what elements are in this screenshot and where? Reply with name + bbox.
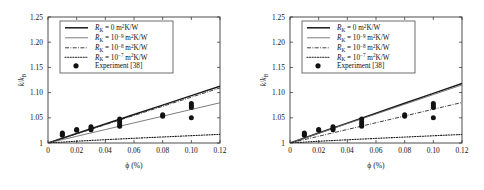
data-point: [431, 101, 436, 106]
x-tick-label: 0.02: [312, 146, 325, 155]
data-point: [331, 124, 336, 129]
x-tick-label: 0.10: [185, 146, 198, 155]
data-point: [431, 115, 436, 120]
y-axis-den-sub: B: [21, 73, 27, 77]
y-axis-den-sub: B: [263, 73, 269, 77]
y-tick-label: 1.10: [272, 88, 285, 97]
legend-unit-tail: K/W: [134, 34, 148, 42]
x-tick-label: 0.06: [128, 146, 141, 155]
legend-unit-tail: K/W: [366, 24, 380, 32]
y-tick-label: 1.15: [30, 63, 43, 72]
chart-svg-right: 00.020.040.060.080.100.1211.051.101.151.…: [242, 0, 484, 190]
y-axis-title: k/kB: [259, 73, 269, 86]
y-tick-label: 1.05: [30, 113, 43, 122]
legend-eq: = 10: [103, 54, 118, 62]
legend-label: Experiment [38]: [95, 62, 142, 70]
y-tick-label: 1.10: [30, 88, 43, 97]
legend-eq: = 0 m: [345, 24, 364, 32]
x-tick-label: 0.02: [70, 146, 83, 155]
legend-marker-experiment: [315, 63, 320, 68]
data-point: [189, 115, 194, 120]
legend-eq: = 0 m: [103, 24, 122, 32]
legend-eq: = 10: [345, 54, 360, 62]
legend-unit-tail: K/W: [134, 44, 148, 52]
legend-unit-tail: K/W: [124, 24, 138, 32]
legend-label: Experiment [38]: [337, 62, 384, 70]
x-tick-label: 0.06: [370, 146, 383, 155]
legend-unit-tail: K/W: [376, 34, 390, 42]
chart-svg-left: 00.020.040.060.080.100.1211.051.101.151.…: [0, 0, 242, 190]
data-point: [316, 127, 321, 132]
x-tick-label: 0.12: [214, 146, 227, 155]
data-point: [74, 127, 79, 132]
data-point: [89, 124, 94, 129]
data-point: [402, 112, 407, 117]
y-tick-label: 1.25: [272, 13, 285, 22]
x-axis-title: ϕ (%): [367, 161, 385, 170]
legend-unit-tail: K/W: [376, 44, 390, 52]
series-line: [48, 103, 220, 143]
y-axis-title-text: k/kB: [17, 73, 27, 86]
x-tick-label: 0: [288, 146, 292, 155]
x-tick-label: 0.04: [99, 146, 112, 155]
x-tick-label: 0.10: [427, 146, 440, 155]
x-tick-label: 0.08: [398, 146, 411, 155]
legend-eq: = 10: [103, 34, 118, 42]
x-tick-label: 0.12: [456, 146, 469, 155]
series-line: [48, 88, 220, 143]
legend-eq: = 10: [345, 44, 360, 52]
y-tick-label: 1.25: [30, 13, 43, 22]
plot-area: [48, 86, 220, 143]
series-line: [290, 102, 462, 143]
y-tick-label: 1.20: [30, 38, 43, 47]
y-tick-label: 1.05: [272, 113, 285, 122]
x-tick-label: 0: [46, 146, 50, 155]
legend-eq: = 10: [103, 44, 118, 52]
legend-unit-tail: K/W: [376, 54, 390, 62]
x-tick-label: 0.04: [341, 146, 354, 155]
series-line: [48, 86, 220, 143]
y-tick-label: 1: [281, 139, 285, 148]
y-tick-label: 1.20: [272, 38, 285, 47]
legend-eq: = 10: [345, 34, 360, 42]
plot-area: [290, 83, 462, 143]
y-axis-title-text: k/kB: [259, 73, 269, 86]
legend-marker-experiment: [73, 63, 78, 68]
x-tick-label: 0.08: [156, 146, 169, 155]
legend-unit-tail: K/W: [134, 54, 148, 62]
data-point: [117, 117, 122, 122]
figure-two-panel-chart: 00.020.040.060.080.100.1211.051.101.151.…: [0, 0, 484, 190]
series-line: [290, 85, 462, 143]
data-point: [302, 131, 307, 136]
data-point: [60, 131, 65, 136]
y-axis-title: k/kB: [17, 73, 27, 86]
x-axis-title: ϕ (%): [125, 161, 143, 170]
data-point: [359, 117, 364, 122]
y-tick-label: 1.15: [272, 63, 285, 72]
data-point: [189, 101, 194, 106]
data-point: [160, 112, 165, 117]
chart-panel-right: 00.020.040.060.080.100.1211.051.101.151.…: [242, 0, 484, 190]
y-tick-label: 1: [39, 139, 43, 148]
chart-panel-left: 00.020.040.060.080.100.1211.051.101.151.…: [0, 0, 242, 190]
